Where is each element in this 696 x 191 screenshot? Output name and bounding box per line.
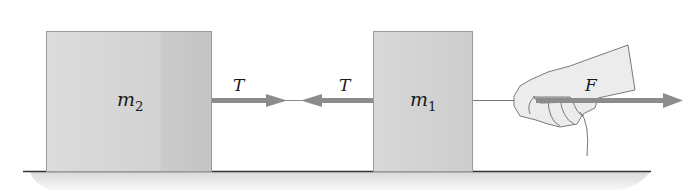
tension-arrow-left-icon: [301, 94, 373, 107]
diagram-canvas: [0, 0, 696, 191]
label-m1: m1: [410, 88, 437, 114]
label-m2: m2: [117, 88, 144, 114]
ground: [23, 172, 651, 191]
label-tension-left: T: [339, 75, 350, 95]
label-m2-sub: 2: [135, 99, 143, 114]
label-m1-main: m: [410, 88, 428, 110]
label-tension-right: T: [233, 75, 244, 95]
rope-segment: [212, 94, 373, 107]
label-m2-main: m: [117, 88, 135, 110]
label-m1-sub: 1: [428, 99, 436, 114]
tension-arrow-right-icon: [212, 94, 287, 107]
physics-diagram: m2 m1 T T F: [0, 0, 696, 191]
label-applied-force: F: [585, 75, 597, 95]
